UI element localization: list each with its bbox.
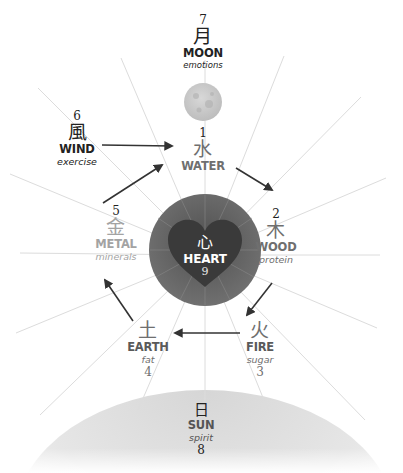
heart-number: 9 xyxy=(183,266,226,277)
sun-number: 8 xyxy=(188,444,215,456)
metal-kanji: 金 xyxy=(95,218,136,237)
node-heart: 心 HEART 9 xyxy=(183,234,226,277)
arrow-icon xyxy=(247,283,272,315)
node-metal: 5 金 METAL minerals xyxy=(95,205,136,261)
earth-kanji: 土 xyxy=(127,321,169,340)
node-water: 1 水 WATER xyxy=(181,127,225,173)
earth-number: 4 xyxy=(127,366,169,378)
arrow-icon xyxy=(102,145,172,146)
node-earth: 土 EARTH fat 4 xyxy=(127,320,169,378)
metal-subtitle: minerals xyxy=(95,252,136,262)
node-moon: 7 月 MOON emotions xyxy=(183,14,223,69)
earth-name: EARTH xyxy=(127,342,169,354)
arrow-icon xyxy=(103,165,162,203)
heart-name: HEART xyxy=(183,253,226,265)
node-wind: 6 風 WIND exercise xyxy=(57,110,97,166)
fire-number: 3 xyxy=(246,366,274,378)
moon-name: MOON xyxy=(183,48,223,60)
fire-name: FIRE xyxy=(246,342,274,354)
metal-name: METAL xyxy=(95,239,136,251)
wind-kanji: 風 xyxy=(57,123,97,142)
sun-name: SUN xyxy=(188,420,215,432)
wood-kanji: 木 xyxy=(256,221,297,240)
water-kanji: 水 xyxy=(181,140,225,159)
moon-icon xyxy=(184,83,222,121)
wood-subtitle: protein xyxy=(256,255,297,265)
fire-subtitle: sugar xyxy=(246,355,274,365)
moon-subtitle: emotions xyxy=(183,61,223,70)
node-fire: 火 FIRE sugar 3 xyxy=(246,320,274,378)
wind-name: WIND xyxy=(57,144,97,156)
sun-kanji: 日 xyxy=(188,403,215,418)
earth-subtitle: fat xyxy=(127,355,169,365)
water-name: WATER xyxy=(181,161,225,173)
sun-subtitle: spirit xyxy=(188,433,215,443)
node-sun: 日 SUN spirit 8 xyxy=(188,402,215,456)
wind-subtitle: exercise xyxy=(57,157,97,167)
wood-name: WOOD xyxy=(256,242,297,254)
heart-kanji: 心 xyxy=(183,235,226,251)
moon-kanji: 月 xyxy=(183,27,223,46)
node-wood: 2 木 WOOD protein xyxy=(256,208,297,264)
arrow-icon xyxy=(236,168,272,190)
fire-kanji: 火 xyxy=(246,321,274,340)
